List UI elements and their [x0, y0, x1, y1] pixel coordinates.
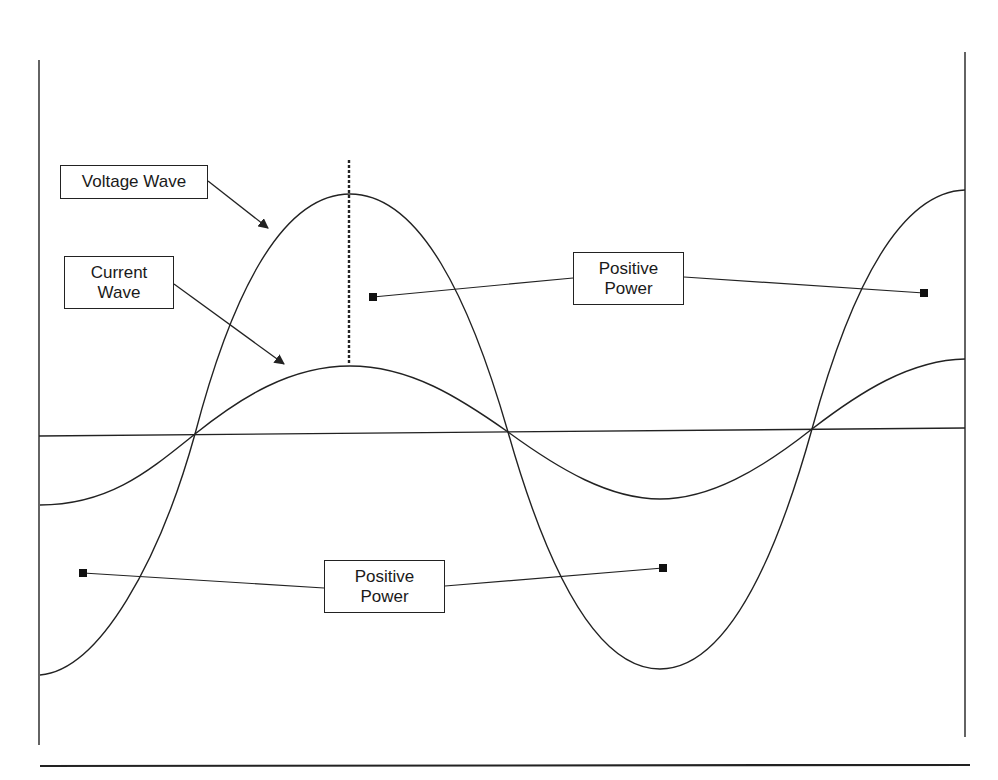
positive-power-top-connector-right: [684, 277, 924, 293]
current-wave-label: Current Wave: [64, 256, 174, 309]
positive-power-top-label: Positive Power: [573, 252, 684, 305]
current-label-arrow: [174, 284, 284, 364]
positive-power-bottom-marker-left: [79, 569, 87, 577]
positive-power-top-connector-left: [373, 278, 573, 297]
frame-bottom-rule: [40, 765, 970, 766]
positive-power-bottom-label: Positive Power: [324, 560, 445, 613]
voltage-wave-label: Voltage Wave: [60, 165, 208, 199]
positive-power-bottom-connector-right: [445, 568, 663, 586]
positive-power-top-marker-left: [369, 293, 377, 301]
zero-axis-line: [39, 428, 965, 436]
positive-power-bottom-marker-right: [659, 564, 667, 572]
power-waveform-diagram: [0, 0, 998, 780]
positive-power-bottom-connector-left: [83, 573, 324, 588]
positive-power-top-marker-right: [920, 289, 928, 297]
voltage-label-arrow: [208, 181, 268, 228]
